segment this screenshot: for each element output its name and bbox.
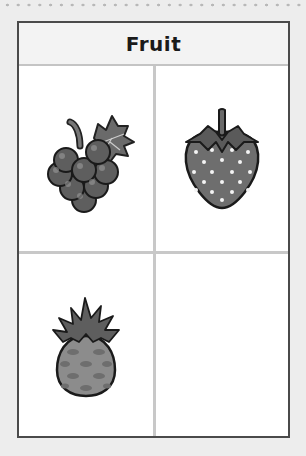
worksheet-title: Fruit [126, 32, 181, 56]
dotted-border-decoration [0, 3, 306, 7]
horizontal-divider [19, 251, 288, 254]
grapes-icon [36, 104, 136, 214]
fruit-grid [19, 66, 288, 436]
cell-pineapple [19, 254, 153, 436]
fruit-worksheet: Fruit [17, 21, 290, 438]
strawberry-icon [182, 104, 262, 214]
cell-empty [156, 254, 288, 436]
pineapple-icon [51, 290, 121, 400]
title-row: Fruit [19, 23, 288, 66]
cell-grapes [19, 66, 153, 251]
cell-strawberry [156, 66, 288, 251]
